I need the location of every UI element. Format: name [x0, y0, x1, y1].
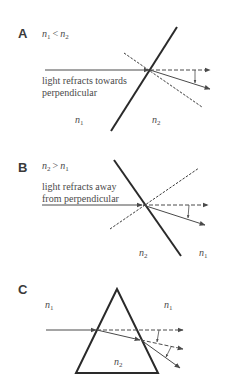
medium-label-c-left: n1: [45, 299, 54, 312]
caption-a-line2: perpendicular: [42, 87, 98, 98]
medium-label-c-prism: n2: [114, 356, 123, 369]
condition-a: n1<n2: [42, 28, 69, 41]
panel-label-c: C: [18, 282, 28, 297]
medium-label-a-left: n1: [75, 114, 84, 127]
deflection-arrow-b: [188, 205, 189, 218]
normal-line-b: [110, 168, 199, 229]
medium-label-b-right: n1: [199, 247, 208, 260]
panel-label-a: A: [18, 26, 28, 41]
caption-a-line1: light refracts towards: [42, 75, 127, 86]
medium-label-b-left: n2: [139, 247, 148, 260]
panel-a: A n1<n2 light refracts towards perpendic…: [18, 26, 210, 131]
caption-b-line1: light refracts away: [42, 181, 116, 192]
medium-label-c-right: n1: [164, 299, 173, 312]
deflection-arrow-c1: [157, 330, 159, 342]
interface-line-b: [114, 160, 181, 256]
medium-label-a-right: n2: [152, 114, 161, 127]
refraction-diagram: A n1<n2 light refracts towards perpendic…: [0, 0, 225, 388]
refracted-ray-a: [150, 70, 210, 89]
caption-b-line2: from perpendicular: [42, 193, 120, 204]
panel-c: C n1 n1 n2: [18, 282, 183, 373]
condition-b: n2>n1: [42, 160, 69, 173]
deflection-arrow-c2: [166, 347, 171, 357]
panel-label-b: B: [18, 160, 27, 175]
panel-b: B n2>n1 light refracts away from perpend…: [18, 160, 208, 260]
normal-line-a: [124, 53, 202, 107]
internal-ray-c: [97, 330, 140, 340]
